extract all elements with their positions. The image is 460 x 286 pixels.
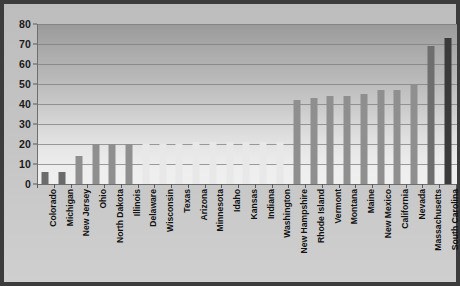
bar-indiana[interactable] xyxy=(260,142,267,184)
x-tick xyxy=(71,184,72,188)
y-tick-label-60: 60 xyxy=(19,58,31,70)
bar-slot xyxy=(422,24,439,184)
x-label-ohio: Ohio xyxy=(99,189,108,209)
bar-ohio[interactable] xyxy=(92,144,99,184)
x-label-wisconsin: Wisconsin xyxy=(166,189,175,232)
x-label-south-carolina: South Carolina xyxy=(451,189,460,250)
bar-slot xyxy=(238,24,255,184)
x-label-maine: Maine xyxy=(367,189,376,213)
x-tick xyxy=(422,184,423,188)
bar-slot xyxy=(339,24,356,184)
x-label-arizona: Arizona xyxy=(200,189,209,221)
bar-slot xyxy=(205,24,222,184)
bar-slot xyxy=(54,24,71,184)
bar-slot xyxy=(87,24,104,184)
bar-slot xyxy=(322,24,339,184)
bar-slot xyxy=(372,24,389,184)
x-label-indiana: Indiana xyxy=(267,189,276,219)
bar-arizona[interactable] xyxy=(193,142,200,184)
bar-delaware[interactable] xyxy=(142,144,149,184)
x-tick xyxy=(138,184,139,188)
bar-new-mexico[interactable] xyxy=(377,90,384,184)
x-tick xyxy=(272,184,273,188)
bar-colorado[interactable] xyxy=(42,172,49,184)
x-tick xyxy=(372,184,373,188)
x-label-nevada: Nevada xyxy=(418,189,427,220)
x-label-new-mexico: New Mexico xyxy=(384,189,393,238)
x-label-idaho: Idaho xyxy=(233,189,242,212)
bar-illinois[interactable] xyxy=(126,144,133,184)
bar-slot xyxy=(255,24,272,184)
bar-maine[interactable] xyxy=(360,94,367,184)
x-label-california: California xyxy=(401,189,410,229)
x-tick xyxy=(54,184,55,188)
bar-slot xyxy=(154,24,171,184)
bar-idaho[interactable] xyxy=(226,142,233,184)
x-label-vermont: Vermont xyxy=(334,189,343,223)
bar-minnesota[interactable] xyxy=(209,142,216,184)
y-tick-label-20: 20 xyxy=(19,138,31,150)
x-tick xyxy=(37,184,38,188)
x-label-north-dakota: North Dakota xyxy=(116,189,125,243)
x-tick xyxy=(121,184,122,188)
y-tick-label-40: 40 xyxy=(19,98,31,110)
bar-slot xyxy=(439,24,456,184)
bar-new-hampshire[interactable] xyxy=(293,100,300,184)
bar-slot xyxy=(121,24,138,184)
bar-south-carolina[interactable] xyxy=(444,38,451,184)
y-tick-label-70: 70 xyxy=(19,38,31,50)
x-label-texas: Texas xyxy=(183,189,192,213)
bar-california[interactable] xyxy=(394,90,401,184)
x-tick xyxy=(288,184,289,188)
x-tick xyxy=(104,184,105,188)
y-tick-label-10: 10 xyxy=(19,158,31,170)
bar-slot xyxy=(138,24,155,184)
x-tick xyxy=(322,184,323,188)
x-tick xyxy=(389,184,390,188)
x-tick xyxy=(171,184,172,188)
bar-montana[interactable] xyxy=(344,96,351,184)
x-tick xyxy=(406,184,407,188)
bar-washington[interactable] xyxy=(277,142,284,184)
bar-slot xyxy=(355,24,372,184)
x-tick xyxy=(456,184,457,188)
y-tick-label-30: 30 xyxy=(19,118,31,130)
x-tick xyxy=(339,184,340,188)
bar-slot xyxy=(171,24,188,184)
x-label-montana: Montana xyxy=(350,189,359,224)
x-tick xyxy=(205,184,206,188)
bar-slot xyxy=(37,24,54,184)
x-label-colorado: Colorado xyxy=(49,189,58,227)
bar-wisconsin[interactable] xyxy=(159,144,166,184)
x-label-new-hampshire: New Hampshire xyxy=(300,189,309,253)
bar-nevada[interactable] xyxy=(411,84,418,184)
x-label-new-jersey: New Jersey xyxy=(82,189,91,236)
x-tick xyxy=(221,184,222,188)
x-label-massachusetts: Massachusetts xyxy=(434,189,443,251)
y-tick-label-80: 80 xyxy=(19,18,31,30)
x-tick xyxy=(355,184,356,188)
x-tick xyxy=(255,184,256,188)
y-tick-label-0: 0 xyxy=(25,178,31,190)
bar-new-jersey[interactable] xyxy=(75,156,82,184)
x-tick xyxy=(154,184,155,188)
x-tick xyxy=(188,184,189,188)
bar-kansas[interactable] xyxy=(243,142,250,184)
bar-vermont[interactable] xyxy=(327,96,334,184)
y-tick-label-50: 50 xyxy=(19,78,31,90)
x-tick xyxy=(305,184,306,188)
x-label-delaware: Delaware xyxy=(149,189,158,227)
bar-michigan[interactable] xyxy=(59,172,66,184)
bar-slot xyxy=(188,24,205,184)
bar-rhode-island[interactable] xyxy=(310,98,317,184)
bar-slot xyxy=(305,24,322,184)
bar-massachusetts[interactable] xyxy=(427,46,434,184)
bar-texas[interactable] xyxy=(176,144,183,184)
x-label-minnesota: Minnesota xyxy=(216,189,225,232)
bar-slot xyxy=(104,24,121,184)
x-tick xyxy=(439,184,440,188)
x-label-illinois: Illinois xyxy=(133,189,142,216)
x-label-washington: Washington xyxy=(283,189,292,238)
bar-chart-figure: 01020304050607080 ColoradoMichiganNew Je… xyxy=(0,0,460,286)
bar-north-dakota[interactable] xyxy=(109,144,116,184)
